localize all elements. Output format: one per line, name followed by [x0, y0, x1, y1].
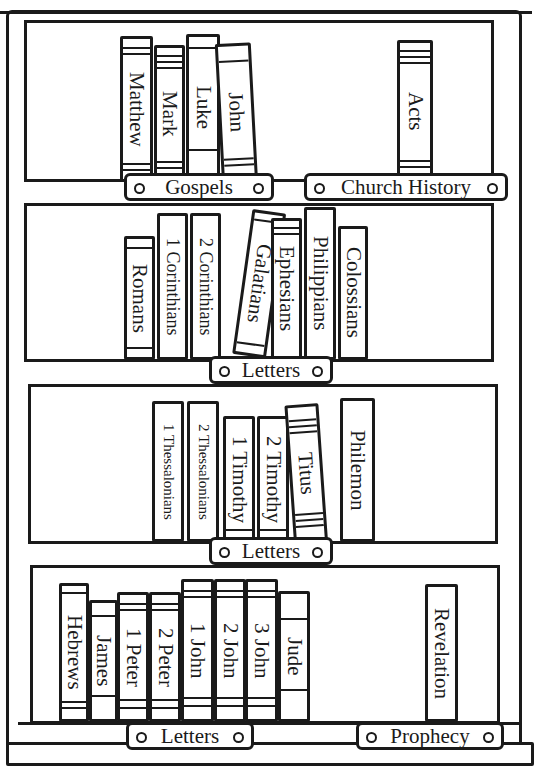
book-title: John — [225, 92, 248, 133]
book-title: James — [93, 635, 114, 686]
book-matthew: Matthew — [120, 36, 153, 182]
book-acts: Acts — [397, 40, 433, 182]
rivet-icon — [483, 732, 494, 743]
book-2-john: 2 John — [214, 579, 246, 722]
book-mark: Mark — [154, 45, 185, 182]
book-2-timothy: 2 Timothy — [257, 416, 289, 542]
book-ephesians: Ephesians — [271, 218, 302, 360]
book-revelation: Revelation — [425, 584, 458, 722]
book-1-john: 1 John — [181, 579, 214, 722]
book-title: Matthew — [126, 72, 147, 147]
rivet-icon — [366, 732, 377, 743]
book-title: 1 Peter — [123, 628, 144, 687]
book-title: 1 John — [187, 623, 208, 678]
book-title: Luke — [193, 86, 214, 129]
book-title: Philemon — [347, 430, 368, 511]
rivet-icon — [314, 183, 325, 194]
book-title: 1 Corinthians — [164, 238, 182, 336]
label-gospels: Gospels — [124, 173, 274, 201]
book-1-timothy: 1 Timothy — [223, 416, 255, 542]
book-jude: Jude — [278, 591, 310, 722]
book-2-peter: 2 Peter — [149, 592, 181, 722]
book-title: 1 Timothy — [229, 436, 250, 523]
label-letters-1: Letters — [209, 356, 333, 384]
book-1-thessalonians: 1 Thessalonians — [152, 401, 184, 542]
book-hebrews: Hebrews — [59, 583, 89, 722]
book-philippians: Philippians — [304, 207, 336, 360]
book-title: Mark — [159, 91, 180, 137]
label-prophecy: Prophecy — [356, 722, 504, 750]
book-james: James — [89, 600, 118, 722]
rivet-icon — [312, 366, 323, 377]
label-church-history: Church History — [304, 173, 508, 201]
book-title: Acts — [405, 92, 426, 131]
rivet-icon — [487, 183, 498, 194]
book-philemon: Philemon — [340, 398, 375, 542]
book-title: Ephesians — [276, 246, 297, 331]
rivet-icon — [219, 366, 230, 377]
book-title: 2 John — [220, 623, 241, 678]
book-title: 2 Thessalonians — [196, 424, 211, 520]
book-3-john: 3 John — [245, 579, 278, 722]
rivet-icon — [233, 732, 244, 743]
book-title: 3 John — [251, 623, 272, 678]
label-letters-3: Letters — [126, 722, 254, 750]
rivet-icon — [312, 547, 323, 558]
book-title: 2 Timothy — [263, 436, 284, 523]
rivet-icon — [253, 183, 264, 194]
book-title: 2 Peter — [155, 628, 176, 687]
book-title: Jude — [284, 637, 305, 676]
book-title: Colossians — [343, 247, 364, 338]
book-colossians: Colossians — [338, 226, 368, 360]
book-title: 2 Corinthians — [197, 238, 215, 336]
label-letters-2: Letters — [209, 537, 333, 565]
book-2-thessalonians: 2 Thessalonians — [187, 401, 219, 542]
book-title: 1 Thessalonians — [161, 424, 176, 520]
rivet-icon — [136, 732, 147, 743]
book-john: John — [215, 42, 258, 182]
rivet-icon — [219, 547, 230, 558]
book-romans: Romans — [124, 236, 155, 360]
book-title: Hebrews — [64, 615, 85, 690]
book-title: Revelation — [431, 608, 452, 699]
book-title: Romans — [129, 264, 150, 333]
book-1-corinthians: 1 Corinthians — [157, 213, 188, 360]
book-1-peter: 1 Peter — [117, 592, 149, 722]
book-title: Titus — [294, 451, 318, 495]
book-title: Philippians — [310, 236, 331, 331]
rivet-icon — [134, 183, 145, 194]
book-2-corinthians: 2 Corinthians — [190, 213, 221, 360]
